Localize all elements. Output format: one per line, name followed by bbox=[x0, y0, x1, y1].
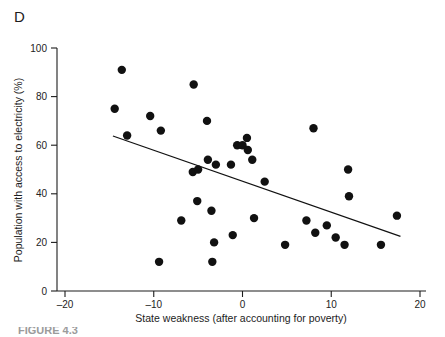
scatter-point bbox=[203, 117, 211, 125]
y-axis-ticks: 020406080100 bbox=[30, 43, 57, 297]
scatter-point bbox=[208, 258, 216, 266]
data-points-layer bbox=[111, 66, 402, 266]
figure-panel-d: D 020406080100 –20–1001020 State weaknes… bbox=[0, 0, 445, 337]
y-tick-label: 80 bbox=[36, 91, 48, 102]
scatter-point bbox=[340, 241, 348, 249]
y-tick-label: 60 bbox=[36, 140, 48, 151]
scatter-point bbox=[377, 241, 385, 249]
scatter-point bbox=[331, 233, 339, 241]
y-tick-label: 20 bbox=[36, 237, 48, 248]
scatter-point bbox=[250, 214, 258, 222]
scatter-point bbox=[309, 124, 317, 132]
scatter-point bbox=[210, 238, 218, 246]
x-tick-label: 20 bbox=[414, 299, 426, 310]
x-axis-title: State weakness (after accounting for pov… bbox=[135, 312, 346, 324]
scatter-point bbox=[344, 165, 352, 173]
scatter-point bbox=[227, 160, 235, 168]
y-tick-label: 40 bbox=[36, 188, 48, 199]
scatter-point bbox=[345, 192, 353, 200]
y-axis-title: Population with access to electricity (%… bbox=[12, 78, 24, 262]
x-tick-label: –10 bbox=[145, 299, 162, 310]
scatter-point bbox=[229, 231, 237, 239]
scatter-point bbox=[323, 221, 331, 229]
scatter-point bbox=[204, 156, 212, 164]
x-axis-ticks: –20–1001020 bbox=[57, 291, 426, 310]
figure-caption: FIGURE 4.3 bbox=[18, 327, 78, 336]
scatter-point bbox=[207, 207, 215, 215]
scatter-point bbox=[248, 156, 256, 164]
scatter-point bbox=[146, 112, 154, 120]
scatter-point bbox=[123, 131, 131, 139]
scatter-point bbox=[157, 126, 165, 134]
scatter-plot: 020406080100 –20–1001020 State weakness … bbox=[0, 0, 445, 337]
scatter-point bbox=[155, 258, 163, 266]
scatter-point bbox=[260, 177, 268, 185]
scatter-point bbox=[118, 66, 126, 74]
scatter-point bbox=[189, 80, 197, 88]
scatter-point bbox=[177, 216, 185, 224]
y-tick-label: 100 bbox=[30, 43, 47, 54]
scatter-point bbox=[212, 160, 220, 168]
scatter-point bbox=[244, 146, 252, 154]
axes-group bbox=[57, 48, 426, 291]
scatter-point bbox=[311, 228, 319, 236]
scatter-point bbox=[193, 197, 201, 205]
scatter-point bbox=[281, 241, 289, 249]
x-tick-label: –20 bbox=[57, 299, 74, 310]
scatter-point bbox=[243, 134, 251, 142]
x-tick-label: 10 bbox=[326, 299, 338, 310]
scatter-point bbox=[302, 216, 310, 224]
scatter-point bbox=[393, 211, 401, 219]
x-tick-label: 0 bbox=[240, 299, 246, 310]
y-tick-label: 0 bbox=[41, 286, 47, 297]
caption-strip: FIGURE 4.3 bbox=[0, 327, 445, 337]
scatter-point bbox=[111, 105, 119, 113]
